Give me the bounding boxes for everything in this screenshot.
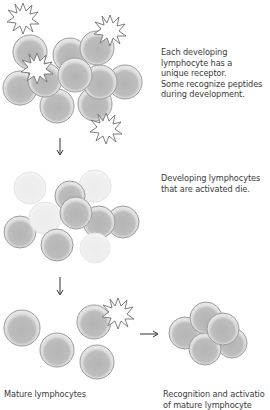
dying-lymphocyte-cell-icon	[14, 172, 46, 204]
step3-right-caption: Recognition and activatio of mature lymp…	[163, 389, 270, 410]
dying-lymphocyte-cell-icon	[80, 233, 110, 263]
lymphocyte-cell-icon	[207, 313, 239, 345]
step3-left-caption: Mature lymphocytes	[4, 389, 86, 400]
lymphocyte-cell-icon	[58, 58, 92, 92]
lymphocyte-cell-icon	[77, 305, 111, 339]
arrow-down-icon	[57, 277, 63, 295]
activated-lymphocyte-cluster	[4, 170, 139, 263]
lymphocyte-cell-icon	[4, 310, 40, 346]
arrow-right-icon	[140, 331, 158, 337]
step1-caption: Each developing lymphocyte has a unique …	[161, 47, 262, 100]
activated-mature-cluster	[169, 302, 247, 365]
step2-caption: Developing lymphocytes that are activate…	[161, 173, 260, 194]
lymphocyte-cell-icon	[60, 197, 92, 229]
lymphocyte-cell-icon	[41, 229, 73, 261]
starburst-antigen-icon	[7, 3, 39, 34]
mature-lymphocytes	[4, 298, 134, 379]
arrow-down-icon	[57, 138, 63, 155]
developing-lymphocyte-cluster	[3, 3, 142, 144]
lymphocyte-cell-icon	[80, 345, 114, 379]
lymphocyte-cell-icon	[40, 333, 74, 367]
